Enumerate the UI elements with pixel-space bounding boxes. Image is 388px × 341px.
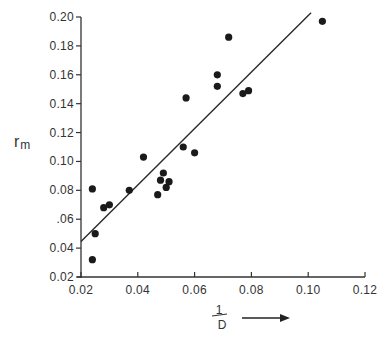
data-point (319, 18, 326, 25)
y-tick-label: 0.12 (49, 126, 74, 140)
x-tick-label: 0.02 (69, 283, 94, 297)
y-axis-title: rm (14, 133, 30, 152)
y-tick-label: 0.02 (49, 270, 74, 284)
scatter-chart: 0.020.04.060.080.100.120.140.160.180.200… (0, 0, 388, 341)
data-point (126, 187, 133, 194)
data-point (89, 256, 96, 263)
data-point (180, 143, 187, 150)
data-point (214, 71, 221, 78)
data-point (140, 154, 147, 161)
data-point (92, 230, 99, 237)
y-tick-label: 0.08 (49, 183, 74, 197)
ticks: 0.020.04.060.080.100.120.140.160.180.200… (49, 10, 377, 297)
x-tick-label: 0.04 (126, 283, 151, 297)
x-tick-label: 0.12 (353, 283, 378, 297)
data-point (225, 34, 232, 41)
y-tick-label: 0.20 (49, 10, 74, 24)
data-point (165, 178, 172, 185)
data-point (89, 185, 96, 192)
data-point (191, 149, 198, 156)
y-tick-label: 0.16 (49, 68, 74, 82)
data-point (157, 177, 164, 184)
y-axis-title-main: r (14, 133, 20, 150)
data-points (89, 18, 326, 264)
data-point (245, 87, 252, 94)
axes (77, 17, 365, 278)
y-axis-title-sub: m (20, 138, 30, 152)
y-tick-label: .06 (56, 212, 74, 226)
x-axis-title-denominator: D (218, 318, 227, 332)
x-tick-label: 0.08 (239, 283, 264, 297)
data-point (106, 201, 113, 208)
y-tick-label: 0.10 (49, 154, 74, 168)
y-tick-label: 0.14 (49, 97, 74, 111)
data-point (154, 191, 161, 198)
x-tick-label: 0.06 (182, 283, 207, 297)
regression-line (81, 13, 311, 242)
data-point (160, 169, 167, 176)
data-point (182, 94, 189, 101)
y-tick-label: 0.04 (49, 241, 74, 255)
arrow-right-icon (242, 314, 290, 322)
x-axis-title: 1 D (212, 303, 290, 332)
data-point (214, 83, 221, 90)
y-tick-label: 0.18 (49, 39, 74, 53)
x-tick-label: 0.10 (296, 283, 321, 297)
